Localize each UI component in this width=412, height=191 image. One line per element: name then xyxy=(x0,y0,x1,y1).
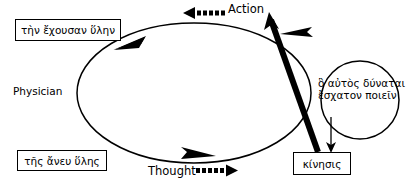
node-top-left-box[interactable]: τὴν ἔχουσαν ὕλην xyxy=(15,19,121,41)
label-physician: Physician xyxy=(13,85,62,97)
label-thought: Thought xyxy=(148,164,196,178)
loop-arrowhead-top-right xyxy=(280,27,313,37)
node-bottom-left-box[interactable]: τῆς ἄνευ ὕλης xyxy=(17,150,107,171)
node-bottom-left-label: τῆς ἄνευ ὕλης xyxy=(24,155,99,167)
label-action: Action xyxy=(228,2,264,16)
main-loop-ellipse xyxy=(77,23,311,163)
thought-dotted-arrow xyxy=(196,165,238,177)
inner-circle-line-2: ἔσχατον ποιεῖν xyxy=(318,90,410,102)
node-top-left-label: τὴν ἔχουσαν ὕλην xyxy=(21,24,115,36)
inner-circle-text: ὃ αὐτὸς δύναται ἔσχατον ποιεῖν xyxy=(318,78,410,102)
loop-arrowhead-bottom xyxy=(181,147,216,159)
node-kinesis-label: κίνησις xyxy=(303,158,342,170)
inner-circle-line-1: ὃ αὐτὸς δύναται xyxy=(318,78,410,90)
diagram-canvas: τὴν ἔχουσαν ὕλην τῆς ἄνευ ὕλης κίνησις ὃ… xyxy=(0,0,412,191)
node-kinesis-box[interactable]: κίνησις xyxy=(293,152,351,175)
action-dotted-arrow xyxy=(183,7,225,19)
